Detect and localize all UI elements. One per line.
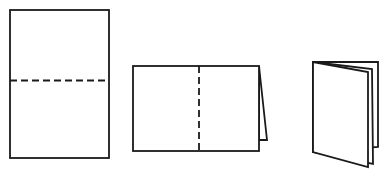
- step-2-half-folded: [133, 66, 267, 151]
- step-1-flat-sheet: [10, 10, 109, 158]
- front-cover: [313, 62, 368, 167]
- folding-diagram: [0, 0, 385, 175]
- folded-sheet-outline: [133, 66, 259, 151]
- sheet-outline: [10, 10, 109, 158]
- back-flap: [259, 66, 267, 140]
- step-3-booklet: [313, 62, 378, 167]
